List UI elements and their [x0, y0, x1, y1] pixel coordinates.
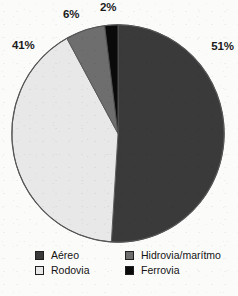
pie-chart-graphic — [11, 24, 225, 243]
slice-label-ferrovia: 2% — [100, 1, 116, 13]
legend-swatch-icon — [125, 266, 134, 275]
legend-row: Aéreo Hidrovia/marítmo — [35, 250, 235, 261]
pie-chart-figure: 51% 41% 6% 2% Aéreo Hidrovia/marítmo Rod… — [0, 0, 238, 296]
slice-label-rodovia: 41% — [12, 39, 35, 51]
legend-swatch-icon — [35, 266, 44, 275]
legend-swatch-icon — [35, 251, 44, 260]
pie-slice-a-reo — [111, 25, 224, 242]
legend-label: Hidrovia/marítmo — [141, 250, 221, 261]
pie-svg — [11, 24, 225, 243]
legend-item-hidrovia-maritmo: Hidrovia/marítmo — [125, 250, 235, 261]
legend-label: Aéreo — [51, 250, 79, 261]
legend-item-aereo: Aéreo — [35, 250, 125, 261]
legend-item-rodovia: Rodovia — [35, 265, 125, 276]
legend-label: Ferrovia — [141, 265, 180, 276]
pie-slices — [12, 25, 224, 242]
slice-label-aereo: 51% — [211, 40, 234, 52]
legend-swatch-icon — [125, 251, 134, 260]
legend-item-ferrovia: Ferrovia — [125, 265, 235, 276]
chart-legend: Aéreo Hidrovia/marítmo Rodovia Ferrovia — [35, 250, 235, 280]
legend-row: Rodovia Ferrovia — [35, 265, 235, 276]
legend-label: Rodovia — [51, 265, 90, 276]
slice-label-hidrovia-maritmo: 6% — [63, 8, 79, 20]
